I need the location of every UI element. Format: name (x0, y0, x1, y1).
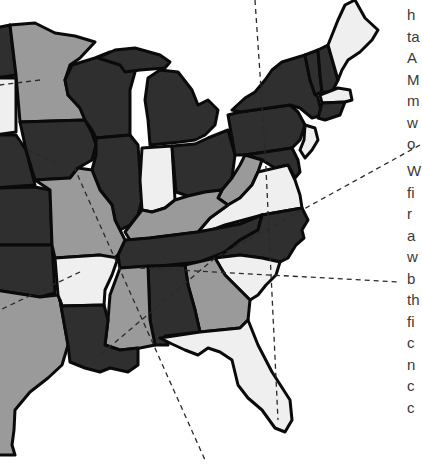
text-line: w (407, 112, 420, 134)
state-michigan-lower (145, 70, 218, 145)
text-line: r (407, 203, 421, 225)
text-line: m (407, 90, 420, 112)
text-line: a (407, 225, 421, 247)
text-line: W (407, 160, 421, 182)
us-map (0, 0, 422, 475)
text-line: M (407, 69, 420, 91)
text-line: c (407, 397, 421, 419)
text-line: fi (407, 311, 421, 333)
state-oklahoma (0, 245, 55, 297)
text-line: A (407, 47, 420, 69)
text-line: h (407, 4, 420, 26)
text-line: w (407, 246, 421, 268)
text-line: o (407, 133, 420, 155)
state-indiana (140, 146, 175, 212)
text-line: b (407, 268, 421, 290)
state-florida (160, 320, 292, 432)
text-line: ta (407, 26, 420, 48)
state-texas (0, 290, 68, 455)
text-line: c (407, 375, 421, 397)
state-maine (328, 0, 378, 80)
clipped-text-column-1: h ta A M m w o (407, 4, 420, 155)
state-south-dakota (0, 78, 16, 135)
text-line: c (407, 332, 421, 354)
state-kansas (0, 187, 52, 245)
text-line: th (407, 289, 421, 311)
state-connecticut (318, 102, 345, 120)
text-line: n (407, 354, 421, 376)
clipped-text-column-2: W fi r a w b th fi c n c c (407, 160, 421, 418)
text-line: fi (407, 182, 421, 204)
state-mississippi (105, 266, 155, 350)
